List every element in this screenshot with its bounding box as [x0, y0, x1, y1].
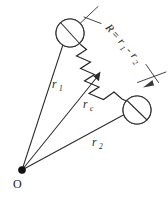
separation-equation: R = r 1 - r 2 [101, 21, 145, 67]
label-r2-subscript: 2 [99, 142, 103, 151]
label-r2-base: r [92, 136, 97, 148]
upper-left-particle [56, 19, 84, 47]
lower-right-particle [123, 96, 151, 124]
vector-r1 [22, 35, 69, 171]
label-rc-subscript: c [90, 104, 94, 113]
origin-dot-marker [18, 166, 25, 173]
leader-line-upper [81, 7, 99, 24]
label-r2: r 2 [92, 136, 103, 151]
label-r1: r 1 [52, 78, 63, 93]
figure-container: r 1 r c r 2 O R = r 1 - r 2 [0, 0, 168, 198]
dimension-line-end [146, 65, 159, 83]
origin-point [18, 166, 25, 173]
vector-diagram-svg: r 1 r c r 2 O R = r 1 - r 2 [0, 0, 168, 198]
label-rc: r c [83, 98, 94, 113]
label-r1-base: r [52, 78, 57, 90]
label-origin: O [13, 177, 22, 191]
origin-label-text: O [13, 177, 22, 191]
dimension-line-start [84, 17, 101, 24]
dimension-arrowhead [143, 80, 154, 88]
label-r1-subscript: 1 [59, 84, 63, 93]
label-rc-base: r [83, 98, 88, 110]
